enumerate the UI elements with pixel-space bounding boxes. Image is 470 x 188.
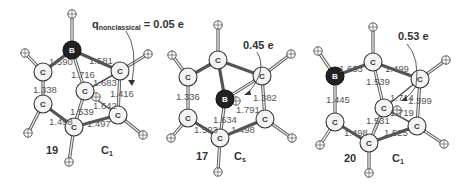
svg-text:C: C: [262, 115, 268, 124]
molecule-19: B C C C C C C 1.590 1.581 1.716 1.683 1.…: [21, 10, 184, 166]
svg-text:C: C: [117, 67, 123, 76]
bond-length-label: 1.498: [231, 124, 255, 135]
svg-text:C: C: [185, 114, 191, 123]
svg-text:C: C: [414, 122, 420, 131]
bond-length-label: 1.531: [366, 115, 390, 126]
bond-length-label: 1.716: [71, 69, 95, 80]
svg-text:B: B: [332, 72, 338, 81]
bond-length-label: 1.497: [87, 118, 111, 129]
compound-label: 17: [196, 150, 208, 162]
point-group-label: Cs: [234, 150, 246, 163]
carbon-atom: C: [326, 113, 344, 131]
carbon-atom: C: [411, 70, 429, 88]
compound-label: 20: [344, 152, 356, 164]
bond-length-label: 1.382: [253, 92, 277, 103]
svg-text:B: B: [69, 46, 75, 55]
carbon-atom: C: [209, 51, 227, 69]
svg-text:0.53 e: 0.53 e: [398, 30, 429, 42]
bond-length-label: 1.399: [408, 95, 432, 106]
carbon-atom: C: [179, 68, 197, 86]
bond-length-label: 1.498: [49, 116, 73, 127]
bond-length-label: 1.642: [93, 100, 117, 111]
point-group-label: C1: [392, 152, 404, 165]
compound-label: 19: [46, 144, 58, 156]
molecule-17: C C C C C C B 1.336 1.382 1.791 1.634 1.…: [167, 21, 296, 176]
molecular-structures-figure: B C C C C C C 1.590 1.581 1.716 1.683 1.…: [0, 0, 470, 188]
bond-length-label: 1.590: [49, 56, 73, 67]
bond-length-label: 1.498: [344, 127, 368, 138]
bond-length-label: 1.416: [110, 88, 134, 99]
svg-text:C: C: [332, 118, 338, 127]
svg-text:C: C: [215, 56, 221, 65]
bond-length-label: 1.539: [70, 106, 94, 117]
carbon-atom: C: [408, 117, 426, 135]
bond-length-label: 1.503: [194, 124, 218, 135]
svg-text:C: C: [381, 104, 387, 113]
svg-text:C: C: [366, 139, 372, 148]
svg-text:C: C: [82, 87, 88, 96]
svg-text:B: B: [222, 95, 228, 104]
bond-length-label: 1.633: [339, 63, 363, 74]
bond-length-label: 1.539: [366, 76, 390, 87]
bond-length-label: 1.525: [384, 127, 408, 138]
boron-atom: B: [216, 90, 234, 108]
svg-text:qnonclassical = 0.05 e: qnonclassical = 0.05 e: [92, 18, 184, 31]
carbon-atom: C: [364, 53, 382, 71]
svg-text:0.45 e: 0.45 e: [243, 39, 274, 51]
svg-text:C: C: [40, 100, 46, 109]
svg-text:C: C: [417, 75, 423, 84]
bond-length-label: 1.336: [176, 91, 200, 102]
bond-length-label: 1.791: [236, 104, 260, 115]
bond-length-label: 1.719: [390, 107, 414, 118]
svg-text:C: C: [370, 58, 376, 67]
bond-length-label: 1.581: [89, 55, 113, 66]
svg-text:C: C: [185, 73, 191, 82]
bond-length-label: 1.499: [385, 63, 409, 74]
molecule-20: C B C C C C C 1.633 1.499 1.539 1.714 1.…: [314, 23, 450, 177]
svg-text:C: C: [115, 111, 121, 120]
svg-text:C: C: [217, 134, 223, 143]
point-group-label: C1: [101, 144, 113, 157]
carbon-atom: C: [76, 82, 94, 100]
bond-length-label: 1.683: [93, 77, 117, 88]
svg-text:C: C: [40, 68, 46, 77]
bond-length-label: 1.338: [33, 84, 57, 95]
carbon-atom: C: [34, 95, 52, 113]
bond-length-label: 1.445: [326, 94, 350, 105]
